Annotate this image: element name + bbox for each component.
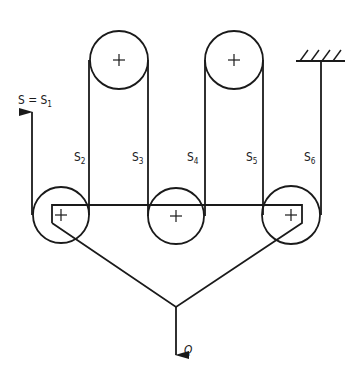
pulley-bottom-left	[33, 187, 89, 243]
pulley-top-right	[205, 31, 263, 89]
label-s4: S4	[187, 150, 198, 166]
label-load-q: Q	[184, 343, 192, 356]
label-s2: S2	[74, 150, 85, 166]
label-input-force: S = S1	[18, 93, 52, 109]
pulley-diagram: S = S1 S2 S3 S4 S5 S6 Q	[0, 0, 361, 378]
pulley-top-left	[90, 31, 148, 89]
ceiling-anchor-icon	[296, 50, 345, 61]
label-s3: S3	[132, 150, 143, 166]
pulley-bottom-right	[262, 186, 320, 244]
pulley-bottom-middle	[148, 188, 204, 244]
diagram-canvas	[0, 0, 361, 378]
label-s5: S5	[246, 150, 257, 166]
label-s6: S6	[304, 150, 315, 166]
load-frame	[52, 205, 302, 307]
